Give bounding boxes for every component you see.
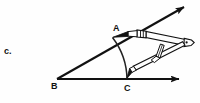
point-label-c: C [124, 84, 131, 93]
compass-collar [137, 30, 146, 38]
drawing-compass [113, 30, 194, 79]
point-label-b: B [51, 82, 58, 91]
ray-b-through-a [57, 7, 184, 79]
point-label-a: A [113, 24, 120, 33]
figure-canvas: c. [0, 0, 200, 103]
compass-hinge-pivot [186, 41, 188, 43]
compass-needle-shaft [128, 31, 137, 37]
geometry-figure [0, 0, 200, 103]
